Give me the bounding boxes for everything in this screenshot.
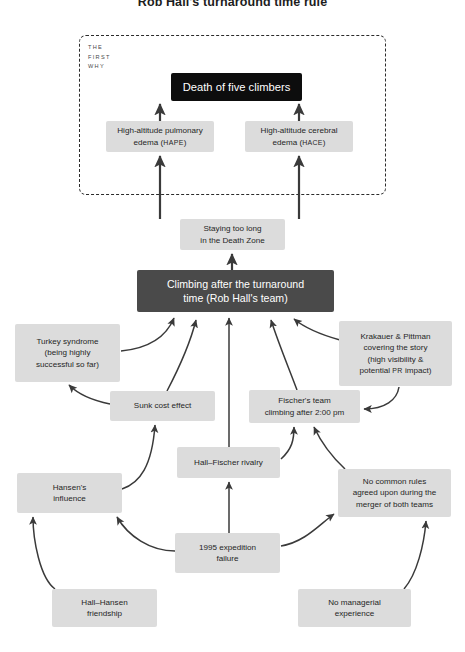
first-why-label-line-2: FIRST [88, 53, 111, 63]
node-sunk-cost-effect[interactable]: Sunk cost effect [110, 391, 215, 421]
first-why-label-line-3: WHY [88, 62, 111, 72]
edge-sunk-climbing [167, 320, 196, 391]
node-label-line-2: experience [335, 609, 375, 618]
diagram-canvas: Rob Hall's turnaround time rule THE FIRS… [0, 0, 465, 652]
node-label: Hansen's influence [53, 482, 87, 505]
node-label-abbr: HACE [302, 139, 323, 146]
node-label: High-altitude cerebral edema (HACE) [261, 125, 338, 148]
page-title: Rob Hall's turnaround time rule [0, 0, 465, 9]
node-label-line-2-post: ) [323, 138, 326, 147]
node-hall-hansen-friendship[interactable]: Hall–Hansen friendship [52, 589, 157, 627]
node-label: Krakauer & Pittman covering the story (h… [359, 331, 431, 377]
node-label-abbr: PR [392, 367, 402, 374]
node-hansen-influence[interactable]: Hansen's influence [17, 473, 122, 513]
node-label-line-2: (being highly [45, 348, 91, 357]
node-label-line-2: friendship [87, 609, 122, 618]
node-label: Turkey syndrome (being highly successful… [36, 336, 99, 371]
node-label-line-1: Hansen's [53, 483, 87, 492]
node-label-line-1: Turkey syndrome [36, 337, 98, 346]
node-label: Death of five climbers [183, 80, 291, 94]
node-1995-expedition-failure[interactable]: 1995 expedition failure [175, 533, 280, 573]
node-label-line-3: successful so far) [36, 360, 99, 369]
edge-sunk-turkey [69, 385, 110, 404]
edge-rivalry-fischer [281, 427, 294, 459]
edge-nomanagerial-nocommon [404, 521, 426, 589]
edge-exp1995-nocommon [281, 514, 334, 546]
first-why-label: THE FIRST WHY [88, 43, 111, 72]
node-label: High-altitude pulmonary edema (HAPE) [117, 125, 202, 148]
edge-friendship-hansen [33, 517, 55, 589]
node-label: Climbing after the turnaround time (Rob … [167, 277, 304, 305]
node-label-line-1: High-altitude pulmonary [117, 126, 202, 135]
node-label-line-2: time (Rob Hall's team) [183, 292, 287, 304]
edge-krakauer-climbing [294, 319, 340, 340]
node-hace[interactable]: High-altitude cerebral edema (HACE) [245, 121, 353, 152]
node-climbing-after-turnaround-time[interactable]: Climbing after the turnaround time (Rob … [137, 270, 334, 312]
node-no-managerial-experience[interactable]: No managerial experience [298, 589, 411, 627]
node-death-of-five-climbers[interactable]: Death of five climbers [171, 73, 302, 101]
edge-turkey-climbing [121, 318, 174, 351]
node-label-line-2-post: ) [184, 138, 187, 147]
node-label-line-1: High-altitude cerebral [261, 126, 338, 135]
edge-krakauer-fischer [364, 387, 399, 409]
node-label-line-2: agreed upon during the [353, 488, 437, 497]
first-why-frame [79, 35, 386, 195]
node-turkey-syndrome[interactable]: Turkey syndrome (being highly successful… [15, 324, 120, 382]
first-why-label-line-1: THE [88, 43, 111, 53]
node-hall-fischer-rivalry[interactable]: Hall–Fischer rivalry [177, 447, 280, 478]
edge-hansen-sunk [122, 425, 155, 489]
node-label-line-2: in the Death Zone [200, 236, 264, 245]
node-label-line-2: climbing after 2:00 pm [265, 408, 345, 417]
node-label-line-2: covering the story [364, 343, 428, 352]
node-label: 1995 expedition failure [199, 542, 256, 565]
node-label-line-2: influence [53, 494, 85, 503]
edge-fischer-climbing [271, 320, 297, 390]
node-label-line-4-pre: potential [359, 366, 392, 375]
node-label-line-3: merger of both teams [356, 500, 433, 509]
node-label-line-2-pre: edema ( [272, 138, 302, 147]
node-label: Staying too long in the Death Zone [200, 223, 264, 246]
node-label: No managerial experience [328, 597, 381, 620]
node-label-line-2: failure [216, 554, 238, 563]
node-label-line-1: Climbing after the turnaround [167, 278, 304, 290]
node-fischer-team-climbing[interactable]: Fischer's team climbing after 2:00 pm [249, 390, 360, 423]
node-hape[interactable]: High-altitude pulmonary edema (HAPE) [106, 121, 214, 152]
node-label: Hall–Hansen friendship [81, 597, 127, 620]
node-label: No common rules agreed upon during the m… [353, 476, 437, 511]
node-label: Sunk cost effect [134, 400, 191, 412]
node-no-common-rules[interactable]: No common rules agreed upon during the m… [338, 469, 451, 517]
node-label-line-1: Krakauer & Pittman [360, 332, 430, 341]
node-label-abbr: HAPE [163, 139, 183, 146]
node-label-line-1: Staying too long [203, 224, 261, 233]
node-label-line-1: 1995 expedition [199, 543, 256, 552]
node-label: Hall–Fischer rivalry [194, 457, 263, 469]
node-label-line-1: No managerial [328, 598, 381, 607]
node-label-line-1: Hall–Hansen [81, 598, 127, 607]
node-label-line-1: No common rules [363, 477, 426, 486]
node-label-line-3: (high visibility & [368, 355, 424, 364]
edge-exp1995-hansen [117, 517, 175, 551]
node-label-line-4-post: impact) [403, 366, 432, 375]
node-staying-too-long-death-zone[interactable]: Staying too long in the Death Zone [180, 219, 285, 250]
node-label: Fischer's team climbing after 2:00 pm [265, 395, 345, 418]
node-krakauer-pittman-coverage[interactable]: Krakauer & Pittman covering the story (h… [339, 321, 452, 386]
node-label-line-1: Fischer's team [278, 396, 330, 405]
node-label-line-2-pre: edema ( [134, 138, 164, 147]
edge-nocommon-fischer [314, 427, 345, 469]
